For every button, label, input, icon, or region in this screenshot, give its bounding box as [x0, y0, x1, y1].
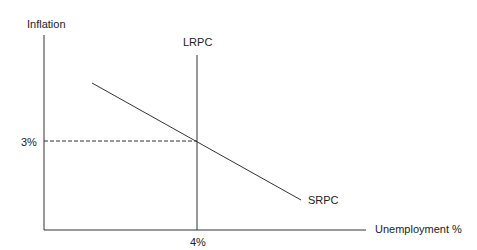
- phillips-curve-diagram: [0, 0, 477, 250]
- y-axis-label: Inflation: [27, 18, 66, 30]
- y-tick-label: 3%: [21, 136, 37, 148]
- srpc-label: SRPC: [308, 194, 339, 206]
- x-axis-label: Unemployment %: [375, 223, 462, 235]
- x-tick-label: 4%: [190, 236, 206, 248]
- lrpc-label: LRPC: [183, 36, 212, 48]
